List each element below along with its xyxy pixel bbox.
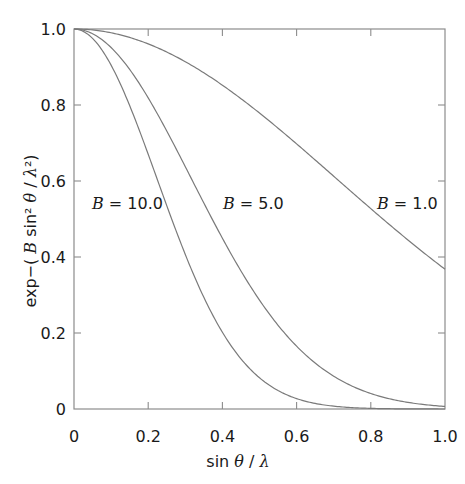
y-tick-label: 0: [56, 400, 66, 419]
chart: 00.20.40.60.81.000.20.40.60.81.0 B = 10.…: [0, 0, 465, 484]
y-tick-label: 1.0: [41, 20, 66, 39]
x-tick-label: 0.2: [135, 427, 160, 446]
x-tick-label: 0.4: [210, 427, 235, 446]
x-tick-label: 0.6: [284, 427, 309, 446]
x-tick-label: 0.8: [358, 427, 383, 446]
curve-annotations: B = 10.0B = 5.0B = 1.0: [91, 194, 438, 213]
curve-label: B = 10.0: [91, 194, 163, 213]
axis-ticks: [74, 29, 445, 409]
curve-b-1: [74, 29, 445, 269]
x-tick-label: 0: [69, 427, 79, 446]
x-tick-label: 1.0: [432, 427, 457, 446]
x-axis-label: sin θ / λ: [206, 452, 269, 471]
y-axis-label: exp−( B sin² θ / λ²): [21, 154, 40, 307]
y-tick-label: 0.6: [41, 172, 66, 191]
curve-b-5: [74, 29, 445, 406]
curves: [74, 29, 445, 409]
curve-label: B = 1.0: [376, 194, 438, 213]
y-tick-label: 0.8: [41, 96, 66, 115]
tick-labels: 00.20.40.60.81.000.20.40.60.81.0: [41, 20, 458, 446]
y-tick-label: 0.4: [41, 248, 66, 267]
curve-label: B = 5.0: [222, 194, 284, 213]
curve-b-10: [74, 29, 445, 409]
y-tick-label: 0.2: [41, 324, 66, 343]
plot-frame: [74, 29, 445, 409]
